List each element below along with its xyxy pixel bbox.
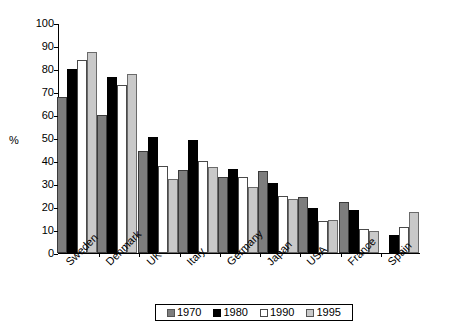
y-axis-tick-mark (54, 208, 58, 209)
y-axis-tick-mark (54, 116, 58, 117)
y-axis-tick-label: 30 (42, 179, 54, 190)
y-axis-tick-mark (54, 70, 58, 71)
bar-italy-1980 (188, 140, 198, 253)
bar-germany-1980 (228, 169, 238, 253)
bar-group (139, 24, 179, 253)
legend-label: 1990 (270, 307, 294, 318)
y-axis-label: % (7, 134, 21, 146)
plot-area (58, 24, 420, 254)
bar-usa-1995 (328, 220, 338, 253)
bar-japan-1980 (268, 183, 278, 253)
bar-uk-1990 (158, 166, 168, 253)
bar-denmark-1970 (97, 115, 107, 253)
bar-sweden-1990 (77, 60, 87, 253)
x-axis-tick-mark (99, 253, 100, 257)
bar-group (381, 24, 421, 253)
y-axis-tick-label: 100 (36, 18, 54, 29)
x-axis-tick-mark (341, 253, 342, 257)
bar-group (59, 24, 99, 253)
y-axis-ticks: 0102030405060708090100 (20, 0, 54, 330)
legend-label: 1970 (177, 307, 201, 318)
bar-denmark-1995 (127, 74, 137, 253)
bar-denmark-1990 (117, 85, 127, 253)
legend-label: 1980 (223, 307, 247, 318)
bar-group (180, 24, 220, 253)
legend-swatch-icon (167, 309, 175, 317)
legend-swatch-icon (213, 309, 221, 317)
bar-denmark-1980 (107, 77, 117, 253)
y-axis-tick-mark (54, 231, 58, 232)
y-axis-tick-mark (54, 24, 58, 25)
y-axis-tick-label: 10 (42, 225, 54, 236)
y-axis-tick-mark (54, 47, 58, 48)
legend-item-1995[interactable]: 1995 (306, 307, 340, 318)
y-axis-tick-mark (54, 93, 58, 94)
y-axis-tick-label: 50 (42, 133, 54, 144)
y-axis-tick-label: 40 (42, 156, 54, 167)
x-axis-tick-mark (260, 253, 261, 257)
legend-label: 1995 (316, 307, 340, 318)
x-axis-tick-mark (139, 253, 140, 257)
bar-sweden-1970 (57, 97, 67, 253)
x-axis-tick-mark (300, 253, 301, 257)
bar-italy-1990 (198, 161, 208, 253)
y-axis-tick-mark (54, 139, 58, 140)
y-axis-tick-mark (54, 254, 58, 255)
y-axis-tick-label: 90 (42, 41, 54, 52)
legend-item-1990[interactable]: 1990 (260, 307, 294, 318)
bar-italy-1995 (208, 167, 218, 253)
bar-group (220, 24, 260, 253)
y-axis-tick-mark (54, 185, 58, 186)
y-axis-tick-label: 20 (42, 202, 54, 213)
x-axis-tick-mark (220, 253, 221, 257)
legend-swatch-icon (260, 309, 268, 317)
bar-sweden-1980 (67, 69, 77, 253)
legend-swatch-icon (306, 309, 314, 317)
bar-group (260, 24, 300, 253)
y-axis-tick-label: 60 (42, 110, 54, 121)
bar-chart: % 0102030405060708090100 SwedenDenmarkUK… (0, 0, 449, 330)
y-axis-tick-label: 80 (42, 64, 54, 75)
y-axis-tick-label: 70 (42, 87, 54, 98)
bar-france-1970 (339, 202, 349, 253)
bar-group (300, 24, 340, 253)
bar-group (341, 24, 381, 253)
bar-uk-1980 (148, 137, 158, 253)
legend-item-1970[interactable]: 1970 (167, 307, 201, 318)
x-axis-tick-mark (180, 253, 181, 257)
x-axis-tick-mark (381, 253, 382, 257)
bar-usa-1970 (298, 197, 308, 253)
bar-germany-1970 (218, 177, 228, 253)
y-axis-tick-mark (54, 162, 58, 163)
bar-sweden-1995 (87, 52, 97, 253)
bar-italy-1970 (178, 170, 188, 253)
legend-item-1980[interactable]: 1980 (213, 307, 247, 318)
bar-group (99, 24, 139, 253)
chart-legend: 1970198019901995 (155, 304, 353, 321)
bar-uk-1995 (168, 179, 178, 253)
